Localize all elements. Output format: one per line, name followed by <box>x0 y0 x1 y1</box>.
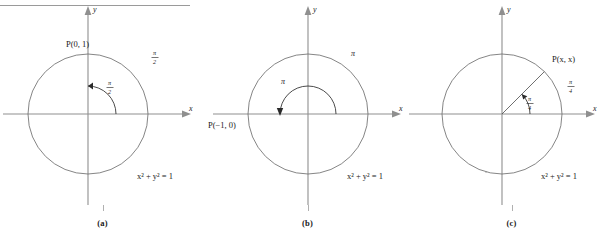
angle-arc-b <box>277 86 336 116</box>
caption-tick-b <box>308 205 309 211</box>
y-axis-a <box>85 6 92 205</box>
equation-label-c: x² + y² = 1 <box>541 171 577 181</box>
inner-angle-label-b: π <box>281 77 286 86</box>
y-axis-label-c: y <box>506 5 511 14</box>
point-label-c: P(x, x) <box>552 54 575 64</box>
x-axis-b <box>213 111 401 118</box>
panel-b: x y P(−1, 0) π π x² + y² = 1 (b) <box>205 0 410 233</box>
outer-angle-numerator-a: π <box>153 49 157 56</box>
panel-b-diagram: x y P(−1, 0) π π x² + y² = 1 <box>205 0 410 233</box>
panel-c: x y P(x, x) π 4 π 4 x² + y² = 1 (c) <box>409 0 614 233</box>
outer-angle-label-c: π 4 <box>568 78 575 94</box>
inner-angle-denominator-c: 4 <box>528 104 531 111</box>
x-axis-a <box>3 111 191 118</box>
panel-c-diagram: x y P(x, x) π 4 π 4 x² + y² = 1 <box>409 0 614 233</box>
caption-b: (b) <box>205 218 410 228</box>
equation-label-b: x² + y² = 1 <box>347 171 383 181</box>
y-axis-label-a: y <box>92 5 97 14</box>
inner-angle-denominator-a: 2 <box>108 88 111 95</box>
x-axis-label-c: x <box>592 104 597 113</box>
figure-root: x y P(0, 1) π 2 π 2 x² + y² = 1 (a) <box>0 0 614 233</box>
stray-mark-c <box>485 171 486 172</box>
inner-angle-numerator-a: π <box>108 79 112 86</box>
caption-c: (c) <box>409 218 614 228</box>
equation-label-a: x² + y² = 1 <box>137 171 173 181</box>
y-axis-c <box>499 6 506 205</box>
panel-a: x y P(0, 1) π 2 π 2 x² + y² = 1 (a) <box>0 0 205 233</box>
panel-a-diagram: x y P(0, 1) π 2 π 2 x² + y² = 1 <box>0 0 205 233</box>
inner-angle-numerator-c: π <box>528 95 532 102</box>
y-axis-label-b: y <box>312 5 317 14</box>
y-axis-b <box>305 6 312 205</box>
outer-angle-numerator-c: π <box>569 78 573 85</box>
caption-a: (a) <box>0 218 205 228</box>
x-axis-label-a: x <box>188 104 193 113</box>
point-label-b: P(−1, 0) <box>208 120 236 130</box>
radius-line-c <box>502 72 544 114</box>
caption-tick-a <box>103 205 104 211</box>
x-axis-label-b: x <box>398 104 403 113</box>
point-label-a: P(0, 1) <box>66 39 89 49</box>
outer-angle-label-a: π 2 <box>152 49 159 65</box>
outer-angle-denominator-c: 4 <box>569 87 572 94</box>
outer-angle-label-b: π <box>351 49 356 58</box>
outer-angle-denominator-a: 2 <box>153 58 156 65</box>
caption-tick-c <box>512 205 513 211</box>
inner-angle-label-a: π 2 <box>107 79 114 95</box>
